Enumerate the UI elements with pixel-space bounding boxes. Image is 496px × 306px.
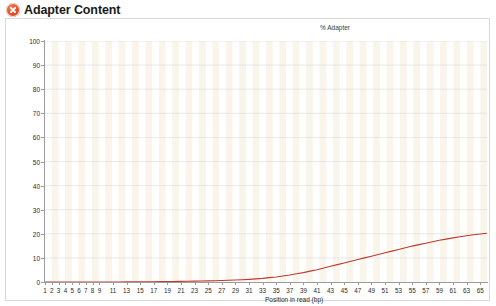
y-tick-mark (41, 113, 44, 114)
x-tick-label: 4 (64, 287, 68, 295)
x-tick-label: 3 (57, 287, 61, 295)
x-tick-mark (167, 282, 168, 285)
y-tick-label: 50 (14, 158, 40, 165)
x-tick-mark (467, 282, 468, 285)
x-tick-label: 9 (98, 287, 102, 295)
x-tick-label: 47 (354, 287, 361, 295)
x-tick-label: 49 (368, 287, 375, 295)
x-tick-label: 5 (70, 287, 74, 295)
y-tick-label: 80 (14, 86, 40, 93)
x-tick-label: 2 (50, 287, 54, 295)
x-tick-mark (480, 282, 481, 285)
x-tick-mark (79, 282, 80, 285)
y-tick-mark (41, 210, 44, 211)
x-tick-label: 27 (218, 287, 225, 295)
x-tick-mark (439, 282, 440, 285)
x-tick-mark (195, 282, 196, 285)
y-tick-label: 30 (14, 206, 40, 213)
x-tick-label: 19 (164, 287, 171, 295)
x-tick-mark (127, 282, 128, 285)
y-tick-mark (41, 41, 44, 42)
x-tick-label: 61 (449, 287, 456, 295)
x-tick-label: 59 (436, 287, 443, 295)
y-tick-label: 90 (14, 62, 40, 69)
x-tick-label: 39 (300, 287, 307, 295)
y-axis-line (44, 40, 45, 283)
x-tick-mark (181, 282, 182, 285)
x-tick-label: 25 (205, 287, 212, 295)
x-tick-label: 1 (43, 287, 47, 295)
x-tick-label: 23 (191, 287, 198, 295)
x-tick-label: 65 (477, 287, 484, 295)
x-tick-label: 17 (150, 287, 157, 295)
x-tick-label: 21 (177, 287, 184, 295)
x-tick-label: 53 (395, 287, 402, 295)
x-tick-label: 55 (409, 287, 416, 295)
y-tick-label: 10 (14, 254, 40, 261)
x-tick-label: 51 (381, 287, 388, 295)
x-tick-mark (222, 282, 223, 285)
y-tick-label: 70 (14, 110, 40, 117)
x-tick-label: 15 (137, 287, 144, 295)
x-tick-mark (45, 282, 46, 285)
x-tick-mark (371, 282, 372, 285)
plot-area (45, 41, 487, 282)
x-tick-mark (426, 282, 427, 285)
x-tick-label: 57 (422, 287, 429, 295)
x-tick-mark (412, 282, 413, 285)
x-tick-mark (399, 282, 400, 285)
x-tick-mark (358, 282, 359, 285)
x-tick-mark (93, 282, 94, 285)
x-tick-mark (385, 282, 386, 285)
x-tick-label: 43 (327, 287, 334, 295)
x-tick-mark (235, 282, 236, 285)
x-tick-mark (140, 282, 141, 285)
x-tick-mark (113, 282, 114, 285)
x-axis-line (44, 282, 488, 283)
y-tick-mark (41, 162, 44, 163)
y-tick-label: 100 (14, 38, 40, 45)
adapter-content-line-chart (45, 41, 487, 282)
adapter-content-module: Adapter Content % Adapter 01020304050607… (0, 0, 496, 306)
y-tick-label: 40 (14, 182, 40, 189)
x-tick-mark (59, 282, 60, 285)
x-axis-ticks: 1234567891113151719212325272931333537394… (0, 285, 496, 295)
x-tick-mark (99, 282, 100, 285)
y-tick-mark (41, 89, 44, 90)
x-tick-mark (52, 282, 53, 285)
x-tick-mark (154, 282, 155, 285)
x-axis-label: Position in read (bp) (265, 296, 323, 303)
y-tick-label: 60 (14, 134, 40, 141)
y-tick-mark (41, 137, 44, 138)
x-tick-label: 63 (463, 287, 470, 295)
x-tick-mark (290, 282, 291, 285)
x-tick-label: 13 (123, 287, 130, 295)
x-tick-label: 37 (286, 287, 293, 295)
x-tick-label: 31 (245, 287, 252, 295)
x-tick-label: 11 (110, 287, 117, 295)
x-tick-mark (317, 282, 318, 285)
y-tick-mark (41, 282, 44, 283)
y-tick-mark (41, 186, 44, 187)
x-tick-mark (453, 282, 454, 285)
x-tick-label: 45 (341, 287, 348, 295)
x-tick-label: 8 (91, 287, 95, 295)
x-tick-mark (72, 282, 73, 285)
x-tick-mark (86, 282, 87, 285)
y-axis-ticks: 0102030405060708090100 (12, 0, 40, 283)
x-tick-label: 6 (77, 287, 81, 295)
chart-title: % Adapter (320, 24, 350, 31)
y-tick-mark (41, 234, 44, 235)
x-tick-mark (331, 282, 332, 285)
x-tick-mark (65, 282, 66, 285)
x-tick-mark (263, 282, 264, 285)
x-tick-label: 41 (313, 287, 320, 295)
x-tick-mark (208, 282, 209, 285)
x-tick-label: 35 (273, 287, 280, 295)
x-tick-mark (249, 282, 250, 285)
x-tick-label: 29 (232, 287, 239, 295)
x-tick-mark (276, 282, 277, 285)
y-tick-mark (41, 65, 44, 66)
y-tick-label: 20 (14, 230, 40, 237)
x-tick-label: 33 (259, 287, 266, 295)
